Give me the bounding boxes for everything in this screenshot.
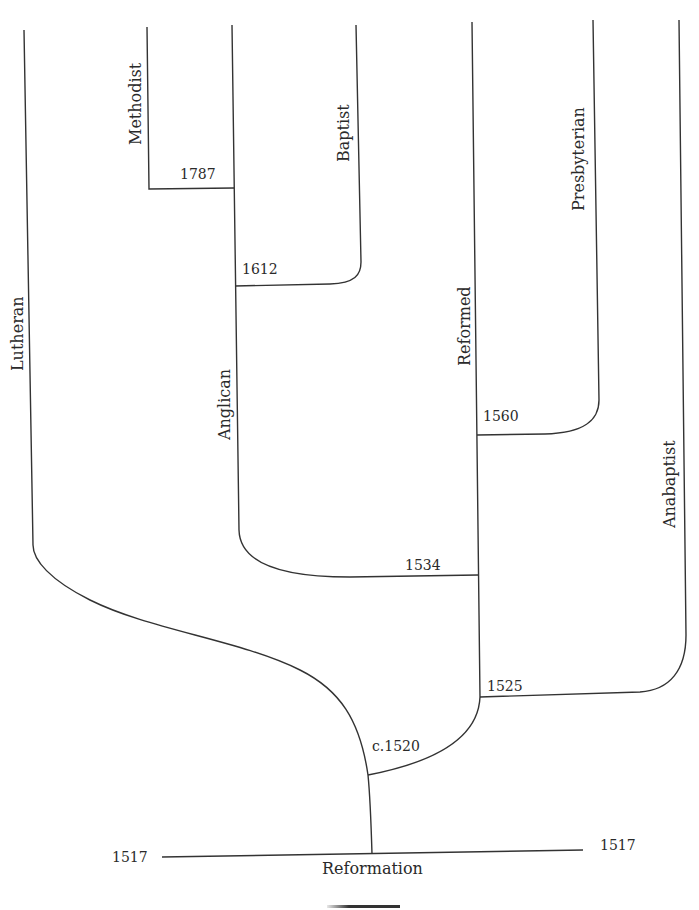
- year-1612: 1612: [242, 262, 278, 276]
- trunk-line: [368, 775, 372, 854]
- label-presbyterian: Presbyterian: [571, 107, 587, 211]
- label-lutheran: Lutheran: [10, 296, 26, 371]
- methodist-line: [147, 27, 234, 189]
- year-1517-right: 1517: [600, 838, 636, 852]
- year-1525: 1525: [487, 679, 523, 693]
- year-1534: 1534: [405, 558, 441, 572]
- presbyterian-line: [477, 20, 599, 435]
- label-anglican: Anglican: [217, 369, 233, 440]
- label-anabaptist: Anabaptist: [662, 440, 678, 528]
- label-reformed: Reformed: [457, 286, 473, 366]
- anglican-line: [232, 25, 478, 577]
- label-baptist: Baptist: [336, 104, 352, 162]
- label-reformation: Reformation: [322, 861, 423, 877]
- footer-rule: [327, 905, 400, 908]
- year-1787: 1787: [180, 167, 216, 181]
- reformed-line: [368, 22, 480, 775]
- lutheran-line: [24, 30, 368, 775]
- year-1517-left: 1517: [112, 850, 148, 864]
- year-1560: 1560: [483, 409, 519, 423]
- label-methodist: Methodist: [128, 63, 144, 145]
- year-c1520: c.1520: [372, 739, 420, 753]
